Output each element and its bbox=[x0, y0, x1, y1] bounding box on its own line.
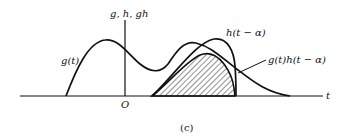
product-curve-label: g(t)h(t − α) bbox=[268, 54, 326, 65]
vertical-axis-label: g, h, gh bbox=[110, 8, 148, 19]
product-region bbox=[152, 54, 235, 96]
t-axis-label: t bbox=[326, 90, 331, 101]
product-leader-line bbox=[238, 60, 266, 73]
h-shifted-curve-label: h(t − α) bbox=[226, 27, 266, 38]
figure-caption: (c) bbox=[180, 122, 194, 133]
origin-label: O bbox=[121, 99, 129, 110]
convolution-diagram: g, h, gh O t g(t) h(t − α) g(t)h(t − α) … bbox=[0, 0, 346, 140]
g-curve-label: g(t) bbox=[61, 55, 79, 66]
